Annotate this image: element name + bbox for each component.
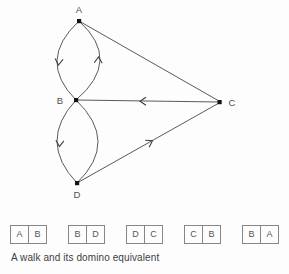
domino-cell: C [184,225,203,244]
domino-cell: A [260,225,279,244]
vertex-dot-c [218,100,222,104]
domino-dc: D C [126,225,163,244]
vertex-label-c: C [229,97,236,108]
figure-caption: A walk and its domino equivalent [11,252,159,263]
vertex-label-d: D [74,189,81,200]
domino-cell: D [86,225,105,244]
edge-b-d-curve-right [76,100,98,183]
vertex-label-a: A [76,4,83,15]
vertex-dot-b [74,98,78,102]
vertex-label-b: B [57,95,63,106]
domino-cell: B [28,225,47,244]
graph-diagram: A B C D [0,0,289,220]
domino-cell: D [126,225,145,244]
domino-cell: C [144,225,163,244]
vertex-dot-a [77,19,81,23]
domino-cb: C B [184,225,221,244]
arrowhead-a-to-b-icon [54,59,63,66]
vertex-dot-d [75,181,79,185]
domino-row: A B B D D C C B B A [0,225,289,245]
edge-c-b [76,100,219,102]
walk-domino-figure: A B C D A B B D D C C B B A A walk and i… [0,0,289,274]
domino-cell: B [242,225,261,244]
arrowhead-b-to-a-icon [94,57,102,63]
edge-b-d-curve-left [57,100,77,183]
domino-bd: B D [68,225,105,244]
domino-ab: A B [10,225,47,244]
edge-a-b-curve-left [57,21,79,100]
domino-ba: B A [242,225,279,244]
domino-cell: B [202,225,221,244]
domino-cell: B [68,225,87,244]
domino-cell: A [10,225,29,244]
